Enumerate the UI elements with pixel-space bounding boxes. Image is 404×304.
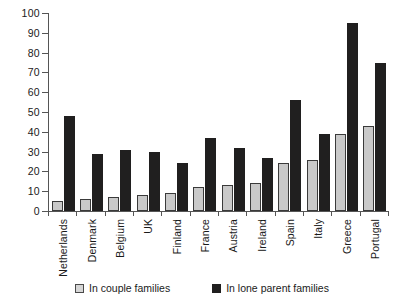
bar-couple-families [222, 185, 233, 211]
bar-lone-parent-families [120, 150, 131, 211]
x-axis-category-label: France [199, 219, 210, 252]
bar-lone-parent-families [347, 23, 358, 211]
bar-couple-families [193, 187, 204, 211]
chart-legend: In couple familiesIn lone parent familie… [0, 283, 404, 294]
bar-chart: 0102030405060708090100 NetherlandsDenmar… [0, 0, 404, 304]
x-axis-category-label: Belgium [114, 219, 125, 258]
bar-couple-families [278, 163, 289, 211]
y-axis-tick-label: 0 [2, 206, 40, 216]
x-axis-category-label: UK [143, 219, 154, 234]
y-axis-tick-label: 60 [2, 87, 40, 97]
bar-couple-families [108, 197, 119, 211]
bar-lone-parent-families [64, 116, 75, 211]
x-axis-category-label: Netherlands [58, 219, 69, 277]
bar-couple-families [52, 201, 63, 211]
x-axis-category-label: Spain [284, 219, 295, 246]
bar-lone-parent-families [262, 158, 273, 211]
bar-lone-parent-families [92, 154, 103, 211]
bar-couple-families [250, 183, 261, 211]
bar-group [250, 13, 273, 211]
y-axis-tick-label: 50 [2, 107, 40, 117]
x-axis-category-label: Ireland [256, 219, 267, 252]
x-axis-category-label: Italy [313, 219, 324, 239]
bar-group [335, 13, 358, 211]
bar-lone-parent-families [319, 134, 330, 211]
bar-lone-parent-families [375, 63, 386, 212]
x-axis-tick [275, 211, 276, 216]
bar-group [52, 13, 75, 211]
bar-group [137, 13, 160, 211]
y-axis-tick-label: 20 [2, 166, 40, 176]
x-axis-tick [76, 211, 77, 216]
x-axis-tick [246, 211, 247, 216]
x-axis-tick [360, 211, 361, 216]
x-axis-tick [388, 211, 389, 216]
bar-group [165, 13, 188, 211]
y-axis-tick-label: 10 [2, 186, 40, 196]
bar-group [193, 13, 216, 211]
bar-lone-parent-families [177, 163, 188, 211]
legend-label: In couple families [89, 283, 170, 294]
x-axis-tick [303, 211, 304, 216]
y-axis-tick-label: 30 [2, 147, 40, 157]
bar-group [278, 13, 301, 211]
y-axis-tick-label: 80 [2, 48, 40, 58]
bar-couple-families [137, 195, 148, 211]
legend-label: In lone parent families [226, 283, 329, 294]
bar-group [108, 13, 131, 211]
x-axis-tick [190, 211, 191, 216]
x-axis-tick [218, 211, 219, 216]
bar-group [80, 13, 103, 211]
legend-item: In lone parent families [212, 283, 329, 294]
plot-area [48, 13, 388, 211]
legend-item: In couple families [75, 283, 170, 294]
x-axis-tick [48, 211, 49, 216]
legend-swatch-couple-families-icon [75, 284, 84, 293]
x-axis-tick [161, 211, 162, 216]
bar-couple-families [165, 193, 176, 211]
x-axis-category-label: Finland [171, 219, 182, 254]
x-axis-category-label: Greece [341, 219, 352, 254]
x-axis-category-label: Austria [228, 219, 239, 252]
y-axis-tick-label: 100 [2, 8, 40, 18]
bar-couple-families [335, 134, 346, 211]
bar-lone-parent-families [234, 148, 245, 211]
bar-lone-parent-families [149, 152, 160, 211]
bar-lone-parent-families [290, 100, 301, 211]
x-axis-tick [331, 211, 332, 216]
bar-couple-families [307, 160, 318, 211]
x-axis-category-label: Portugal [369, 219, 380, 259]
bar-group [307, 13, 330, 211]
bar-group [363, 13, 386, 211]
bar-couple-families [363, 126, 374, 211]
y-axis-tick-label: 40 [2, 127, 40, 137]
bar-lone-parent-families [205, 138, 216, 211]
x-axis-category-label: Denmark [86, 219, 97, 262]
y-axis-tick-label: 90 [2, 28, 40, 38]
x-axis-tick [133, 211, 134, 216]
legend-swatch-lone-parent-families-icon [212, 284, 221, 293]
bar-couple-families [80, 199, 91, 211]
x-axis-tick [105, 211, 106, 216]
bar-group [222, 13, 245, 211]
y-axis-tick-label: 70 [2, 67, 40, 77]
